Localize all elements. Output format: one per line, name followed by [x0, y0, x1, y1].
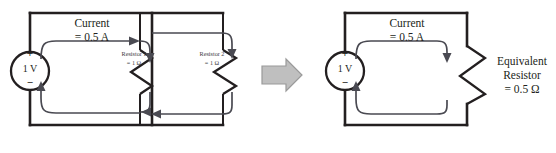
resistor2-label-line2: = 1 Ω	[186, 60, 238, 67]
right-arrow-icon	[262, 59, 302, 91]
transition-arrow-group	[262, 59, 302, 91]
left-source-value-label: 1 V	[0, 63, 60, 74]
equivalent-resistor-label-line3: = 0.5 Ω	[490, 83, 554, 96]
left-current-label-line2: = 0.5 A	[53, 31, 131, 44]
right-source-value-label: 1 V	[315, 63, 375, 74]
eq-resistor-zigzag	[460, 46, 485, 104]
circuit-diagram-canvas: 1 V + − Current = 0.5 A Resistor 1 = 1 Ω…	[0, 0, 556, 153]
right-current-top-arrowhead	[443, 53, 452, 63]
equivalent-resistor-label-line2: Resistor	[490, 69, 554, 82]
right-source-minus-sign: −	[315, 77, 375, 88]
left-current-bottom-arc	[41, 90, 140, 113]
right-current-label-line1: Current	[368, 17, 446, 30]
right-current-bottom-arc	[356, 90, 447, 114]
left-source-minus-sign: −	[0, 77, 60, 88]
left-current-r2-arc	[152, 33, 232, 50]
resistor1-label-line1: Resistor 1	[108, 51, 160, 58]
equivalent-resistor-label-line1: Equivalent	[490, 55, 554, 68]
left-source-plus-sign: +	[0, 48, 60, 59]
right-source-plus-sign: +	[315, 48, 375, 59]
left-current-r1-return-arrowhead	[141, 108, 151, 117]
left-current-r2-return	[160, 92, 232, 114]
right-current-label-line2: = 0.5 A	[368, 31, 446, 44]
left-current-label-line1: Current	[53, 17, 131, 30]
resistor2-label-line1: Resistor 2	[186, 51, 238, 58]
resistor1-label-line2: = 1 Ω	[108, 60, 160, 67]
